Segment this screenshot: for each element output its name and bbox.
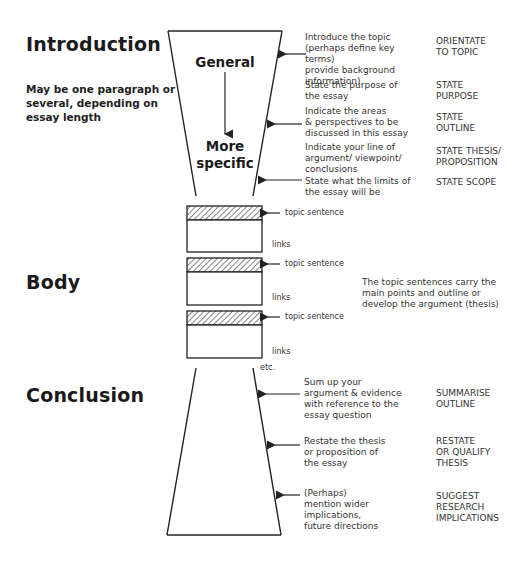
intro-pointer-arrows (266, 54, 306, 180)
conclusion-step-1-description: Sum up your argument & evidence with ref… (304, 377, 424, 421)
conclusion-step-3-tag: SUGGEST RESEARCH IMPLICATIONS (436, 491, 524, 524)
funnel-label-more-specific: More specific (185, 138, 265, 172)
body-topic-sentence-label-3: topic sentence (285, 312, 344, 321)
introduction-note: May be one paragraph or several, dependi… (26, 82, 176, 124)
intro-step-3-tag: STATE OUTLINE (436, 112, 524, 134)
intro-step-4-tag: STATE THESIS/ PROPOSITION (436, 146, 524, 168)
intro-step-1-description: Introduce the topic (perhaps define key … (305, 32, 425, 87)
conclusion-funnel (167, 368, 281, 535)
body-paragraph-1 (187, 206, 280, 252)
body-topic-sentence-label-1: topic sentence (285, 208, 344, 217)
funnel-label-general: General (185, 54, 265, 71)
body-title: Body (26, 271, 80, 293)
conclusion-step-1-tag: SUMMARISE OUTLINE (436, 388, 524, 410)
conclusion-step-2-tag: RESTATE or QUALIFY THESIS (436, 436, 524, 469)
intro-step-1-tag: ORIENTATE TO TOPIC (436, 36, 524, 58)
body-paragraph-3 (187, 311, 280, 358)
intro-step-2-tag: STATE PURPOSE (436, 80, 524, 102)
body-note: The topic sentences carry the main point… (362, 277, 524, 310)
intro-step-5-tag: STATE SCOPE (436, 177, 524, 188)
intro-step-2-description: State the purpose of the essay (305, 80, 425, 102)
body-paragraph-2 (187, 258, 280, 305)
conclusion-step-3-description: (Perhaps) mention wider implications, fu… (304, 488, 424, 532)
intro-step-3-description: Indicate the areas & perspectives to be … (305, 106, 425, 139)
conclusion-title: Conclusion (26, 384, 144, 406)
body-links-label-1: links (272, 240, 290, 249)
introduction-title: Introduction (26, 33, 161, 55)
intro-step-5-description: State what the limits of the essay will … (305, 176, 435, 198)
conclusion-step-2-description: Restate the thesis or proposition of the… (304, 436, 424, 469)
body-topic-sentence-label-2: topic sentence (285, 259, 344, 268)
body-links-label-3: links (272, 347, 290, 356)
body-etc-label: etc. (260, 363, 275, 372)
body-links-label-2: links (272, 293, 290, 302)
intro-step-4-description: Indicate your line of argument/ viewpoin… (305, 142, 425, 175)
